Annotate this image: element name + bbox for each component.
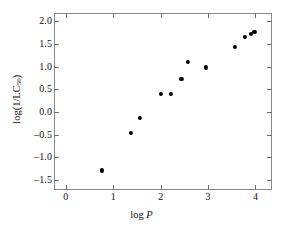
x-axis-tick-top [66, 13, 67, 18]
y-axis-tick-right [267, 180, 272, 181]
y-axis-tick [54, 112, 59, 113]
y-axis-tick [54, 180, 59, 181]
y-axis-tick [54, 44, 59, 45]
y-axis-tick-right [267, 44, 272, 45]
y-axis-tick-right [267, 135, 272, 136]
y-axis-tick-label: 0.5 [39, 84, 52, 94]
y-axis-tick-label: –1.5 [34, 175, 52, 185]
y-axis-tick [54, 157, 59, 158]
x-axis-tick-label: 3 [206, 191, 211, 202]
x-axis-tick-label: 0 [63, 191, 68, 202]
x-axis-title-variable: P [146, 209, 152, 220]
x-axis-tick-label: 2 [158, 191, 163, 202]
x-axis-title-prefix: log [130, 209, 146, 220]
y-axis-tick-label: 1.0 [39, 62, 52, 72]
y-axis-tick-label: –1.0 [34, 152, 52, 162]
y-axis-tick-label: 1.5 [39, 39, 52, 49]
y-axis-tick-label: 0.0 [39, 107, 52, 117]
y-axis-title-suffix: ) [11, 75, 22, 79]
y-axis-tick [54, 67, 59, 68]
x-axis-tick [66, 185, 67, 190]
y-axis-title: log(1/LC50) [11, 39, 24, 159]
x-axis-tick-top [161, 13, 162, 18]
x-axis-title: log P [0, 209, 283, 220]
x-axis-tick-top [255, 13, 256, 18]
y-axis-title-prefix: log(1/LC [11, 85, 22, 124]
y-axis-tick-label: 2.0 [39, 16, 52, 26]
y-axis-tick [54, 89, 59, 90]
y-axis-tick-right [267, 89, 272, 90]
y-axis-tick [54, 135, 59, 136]
plot-frame [54, 13, 272, 190]
y-axis-tick-label: –0.5 [34, 130, 52, 140]
x-axis-tick [208, 185, 209, 190]
x-axis-tick-top [208, 13, 209, 18]
x-axis-tick [161, 185, 162, 190]
x-axis-tick-label: 4 [253, 191, 258, 202]
y-axis-title-subscript: 50 [15, 78, 23, 85]
x-axis-tick [113, 185, 114, 190]
x-axis-tick [255, 185, 256, 190]
y-axis-tick-right [267, 157, 272, 158]
y-axis-tick-right [267, 112, 272, 113]
y-axis-tick-right [267, 21, 272, 22]
scatter-plot-figure: –1.5–1.0–0.50.00.51.01.52.0 01234 log P … [0, 0, 283, 238]
x-axis-tick-top [113, 13, 114, 18]
x-axis-tick-label: 1 [111, 191, 116, 202]
y-axis-tick-right [267, 67, 272, 68]
y-axis-tick [54, 21, 59, 22]
